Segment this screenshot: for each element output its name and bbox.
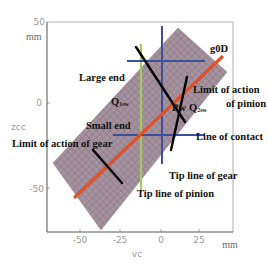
svg-text:-50: -50 [73, 235, 88, 245]
label-limit-of-action-gear: Limit of action of gear [12, 138, 113, 149]
svg-text:-50: -50 [29, 184, 44, 194]
label-large-end: Large end [79, 72, 125, 83]
x-axis-name: vc [132, 249, 142, 259]
label-limit-of-action-pinion-2: of pinion [226, 98, 266, 109]
label-line-of-contact: Line of contact [196, 131, 264, 142]
svg-text:25: 25 [193, 235, 204, 245]
y-axis-name: zcc [11, 122, 26, 132]
svg-text:-25: -25 [113, 235, 128, 245]
y-axis-unit: mm [26, 31, 42, 42]
svg-text:0: 0 [158, 235, 164, 245]
label-tip-line-of-pinion: Tip line of pinion [137, 188, 214, 199]
label-small-end: Small end [86, 120, 131, 131]
x-axis-unit: mm [222, 239, 238, 250]
label-tip-line-of-gear: Tip line of gear [169, 170, 238, 181]
svg-text:0: 0 [36, 98, 42, 108]
x-axis-ticks: -50 -25 0 25 [73, 235, 205, 245]
y-axis-ticks: 50 0 -50 [29, 17, 45, 194]
svg-text:50: 50 [34, 17, 46, 27]
gear-contact-diagram: 50 0 -50 mm zcc -50 -25 0 25 mm vc g0D L… [0, 0, 268, 264]
label-g0d: g0D [210, 43, 229, 54]
label-limit-of-action-pinion-1: Limit of action [193, 84, 260, 95]
label-pw-q2sw: PwQ2sw [172, 102, 208, 113]
